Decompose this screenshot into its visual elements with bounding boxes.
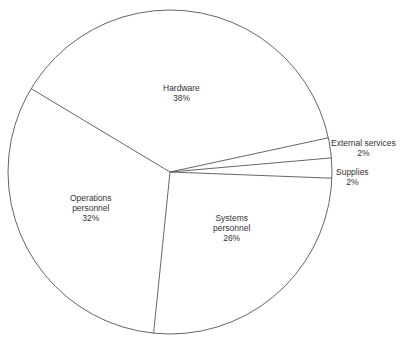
label-operations-personnel-pct: 32% bbox=[70, 213, 112, 223]
label-external-services: External services 2% bbox=[331, 138, 396, 158]
label-hardware: Hardware 38% bbox=[163, 83, 200, 103]
label-systems-personnel: Systems personnel 26% bbox=[213, 213, 250, 243]
label-operations-personnel-line2: personnel bbox=[70, 203, 112, 213]
label-external-services-name: External services bbox=[331, 138, 396, 148]
label-operations-personnel-line1: Operations bbox=[70, 193, 112, 203]
label-supplies-pct: 2% bbox=[336, 177, 369, 187]
label-external-services-pct: 2% bbox=[331, 148, 396, 158]
label-supplies: Supplies 2% bbox=[336, 167, 369, 187]
label-supplies-name: Supplies bbox=[336, 167, 369, 177]
label-systems-personnel-line2: personnel bbox=[213, 223, 250, 233]
label-systems-personnel-line1: Systems bbox=[213, 213, 250, 223]
label-operations-personnel: Operations personnel 32% bbox=[70, 193, 112, 223]
label-systems-personnel-pct: 26% bbox=[213, 233, 250, 243]
label-hardware-pct: 38% bbox=[163, 93, 200, 103]
label-hardware-name: Hardware bbox=[163, 83, 200, 93]
